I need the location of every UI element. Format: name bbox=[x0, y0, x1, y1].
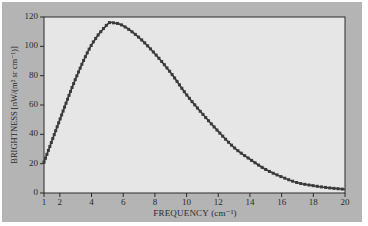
data-marker bbox=[295, 181, 298, 184]
data-marker bbox=[185, 94, 188, 97]
data-marker bbox=[247, 157, 250, 160]
data-marker bbox=[171, 73, 174, 76]
data-marker bbox=[264, 168, 267, 171]
data-marker bbox=[92, 40, 95, 43]
data-marker bbox=[233, 146, 236, 149]
data-marker bbox=[127, 28, 130, 31]
data-marker bbox=[60, 113, 63, 116]
data-marker bbox=[215, 129, 218, 132]
data-marker bbox=[196, 107, 199, 110]
data-marker bbox=[218, 132, 221, 135]
data-marker bbox=[160, 60, 163, 63]
data-marker bbox=[173, 76, 176, 79]
x-tick-label: 1 bbox=[36, 198, 52, 207]
data-marker bbox=[183, 90, 186, 93]
data-marker bbox=[69, 90, 72, 93]
data-marker bbox=[243, 154, 246, 157]
data-marker bbox=[82, 59, 85, 62]
data-marker bbox=[199, 110, 202, 113]
data-marker bbox=[65, 102, 68, 105]
data-marker bbox=[120, 23, 123, 26]
data-marker bbox=[268, 170, 271, 173]
data-marker bbox=[44, 157, 47, 160]
data-marker bbox=[155, 54, 158, 57]
data-marker bbox=[97, 33, 100, 36]
data-marker bbox=[230, 144, 233, 147]
data-marker bbox=[207, 119, 210, 122]
x-tick-label: 8 bbox=[147, 198, 163, 207]
data-marker bbox=[168, 70, 171, 73]
data-marker bbox=[257, 164, 260, 167]
data-marker bbox=[146, 44, 149, 47]
x-tick-label: 14 bbox=[242, 198, 258, 207]
data-marker bbox=[324, 186, 327, 189]
data-marker bbox=[56, 125, 59, 128]
data-marker bbox=[140, 38, 143, 41]
data-marker bbox=[157, 57, 160, 60]
data-marker bbox=[74, 78, 77, 81]
data-marker bbox=[201, 113, 204, 116]
data-marker bbox=[332, 187, 335, 190]
data-marker bbox=[178, 83, 181, 86]
data-marker bbox=[131, 30, 134, 33]
y-axis-label: BRIGHTNESS [nW/(m² sr cm⁻¹)] bbox=[9, 46, 19, 163]
data-marker bbox=[299, 182, 302, 185]
data-marker bbox=[279, 175, 282, 178]
data-marker bbox=[312, 184, 315, 187]
x-tick-label: 18 bbox=[305, 198, 321, 207]
data-marker bbox=[191, 100, 194, 103]
data-marker bbox=[272, 172, 275, 175]
data-marker bbox=[291, 180, 294, 183]
data-marker bbox=[328, 186, 331, 189]
data-marker bbox=[86, 51, 89, 54]
data-marker bbox=[337, 187, 340, 190]
data-marker bbox=[163, 63, 166, 66]
chart-canvas bbox=[0, 0, 368, 226]
data-marker bbox=[68, 94, 71, 97]
data-marker bbox=[59, 117, 62, 120]
x-tick-label: 12 bbox=[210, 198, 226, 207]
y-tick-label: 120 bbox=[16, 12, 38, 21]
data-marker bbox=[134, 33, 137, 36]
data-marker bbox=[210, 122, 213, 125]
data-marker bbox=[283, 177, 286, 180]
data-marker bbox=[165, 66, 168, 69]
data-marker bbox=[116, 22, 119, 25]
data-marker bbox=[307, 183, 310, 186]
data-marker bbox=[50, 141, 53, 144]
data-marker bbox=[204, 116, 207, 119]
data-marker bbox=[105, 24, 108, 27]
data-marker bbox=[316, 185, 319, 188]
x-tick-label: 2 bbox=[52, 198, 68, 207]
y-tick-label: 100 bbox=[16, 41, 38, 50]
data-marker bbox=[72, 82, 75, 85]
data-marker bbox=[62, 110, 65, 113]
x-tick-label: 4 bbox=[84, 198, 100, 207]
data-marker bbox=[152, 50, 155, 53]
data-marker bbox=[180, 87, 183, 90]
x-tick-label: 20 bbox=[337, 198, 353, 207]
data-marker bbox=[236, 149, 239, 152]
data-marker bbox=[90, 44, 93, 47]
data-marker bbox=[94, 37, 97, 40]
data-marker bbox=[137, 36, 140, 39]
data-marker bbox=[54, 129, 57, 132]
data-marker bbox=[303, 183, 306, 186]
data-marker bbox=[240, 152, 243, 155]
data-marker bbox=[47, 149, 50, 152]
y-tick-label: 60 bbox=[16, 100, 38, 109]
data-marker bbox=[79, 67, 82, 70]
y-tick-label: 20 bbox=[16, 159, 38, 168]
x-tick-label: 6 bbox=[115, 198, 131, 207]
data-marker bbox=[48, 145, 51, 148]
data-marker bbox=[213, 125, 216, 128]
data-marker bbox=[66, 98, 69, 101]
data-marker bbox=[320, 185, 323, 188]
y-tick-label: 0 bbox=[16, 188, 38, 197]
data-marker bbox=[143, 41, 146, 44]
data-marker bbox=[261, 166, 264, 169]
data-marker bbox=[227, 141, 230, 144]
data-marker bbox=[57, 121, 60, 124]
data-marker bbox=[84, 55, 87, 58]
data-marker bbox=[149, 47, 152, 50]
